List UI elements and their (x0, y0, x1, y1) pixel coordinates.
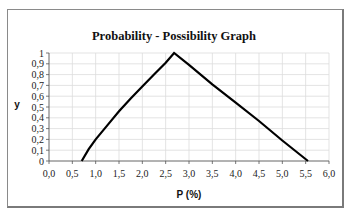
x-tick-label: 3,0 (183, 168, 196, 179)
y-tick-label: 1 (39, 48, 44, 59)
y-tick-label: 0,2 (32, 134, 45, 145)
x-axis-label: P (%) (177, 189, 202, 200)
y-tick-label: 0,9 (32, 58, 45, 69)
x-tick-label: 5,5 (299, 168, 312, 179)
x-tick-label: 3,5 (206, 168, 219, 179)
y-tick-label: 0,6 (32, 91, 45, 102)
x-tick-label: 0,5 (66, 168, 79, 179)
x-tick-label: 1,5 (113, 168, 126, 179)
y-tick-label: 0,4 (32, 112, 45, 123)
x-tick-label: 5,0 (276, 168, 289, 179)
x-tick-label: 2,0 (136, 168, 149, 179)
y-tick-label: 0,7 (32, 80, 45, 91)
y-tick-label: 0,5 (32, 102, 45, 113)
x-tick-label: 2,5 (159, 168, 172, 179)
y-tick-label: 0,1 (32, 145, 45, 156)
y-tick-label: 0,8 (32, 69, 45, 80)
y-axis-ticks: 00,10,20,30,40,50,60,70,80,91 (32, 48, 45, 167)
chart-title: Probability - Possibility Graph (92, 29, 256, 43)
x-tick-label: 6,0 (323, 168, 336, 179)
y-tick-label: 0,3 (32, 123, 45, 134)
y-tick-label: 0 (39, 156, 44, 167)
line-chart: Probability - Possibility Graph 0,00,51,… (0, 0, 346, 212)
x-tick-label: 1,0 (89, 168, 102, 179)
x-tick-label: 4,5 (253, 168, 266, 179)
axes (46, 53, 329, 164)
x-tick-label: 0,0 (43, 168, 56, 179)
x-axis-ticks: 0,00,51,01,52,02,53,03,54,04,55,05,56,0 (43, 168, 336, 179)
x-tick-label: 4,0 (229, 168, 242, 179)
y-axis-label: y (14, 99, 20, 110)
